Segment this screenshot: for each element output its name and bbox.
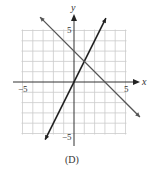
line-2 [40, 17, 140, 117]
y-tick-label-max: 5 [67, 25, 72, 35]
axes [13, 14, 140, 146]
plotted-lines [40, 17, 140, 140]
x-tick-label-min: −5 [18, 84, 28, 94]
y-axis-arrow-icon [71, 14, 77, 21]
line-1 [45, 18, 106, 140]
y-axis-label: y [70, 2, 76, 13]
figure-caption: (D) [65, 154, 79, 166]
y-tick-label-min: −5 [62, 132, 72, 142]
x-axis-arrow-icon [133, 79, 140, 85]
x-tick-label-max: 5 [124, 84, 129, 94]
coordinate-plane-chart: x y −5 5 5 −5 (D) [0, 0, 152, 171]
x-axis-label: x [141, 76, 147, 87]
